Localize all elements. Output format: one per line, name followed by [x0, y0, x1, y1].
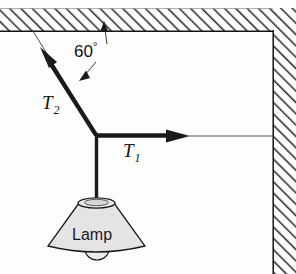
t1-arrowhead [166, 130, 190, 143]
diagram-canvas [0, 0, 296, 274]
tension-label-t1: T1 [123, 140, 141, 166]
t2-arrowhead [40, 47, 57, 68]
tension-label-t1-symbol: T [123, 140, 134, 161]
degree-icon: ° [93, 40, 97, 52]
lamp-label: Lamp [72, 226, 112, 244]
ceiling-hatched-region [0, 8, 296, 32]
angle-leader-arrowhead-cord [79, 71, 90, 82]
lamp-shade-inner-rim [85, 199, 109, 205]
physics-diagram-lamp: T2 T1 60° Lamp [0, 0, 296, 274]
wall-hatched-region [272, 8, 296, 274]
angle-label: 60° [74, 40, 97, 62]
tension-label-t1-subscript: 1 [134, 151, 141, 165]
tension-label-t2-subscript: 2 [53, 103, 60, 117]
tension-label-t2: T2 [42, 92, 60, 118]
tension-label-t2-symbol: T [42, 92, 53, 113]
angle-label-value: 60 [74, 42, 93, 61]
